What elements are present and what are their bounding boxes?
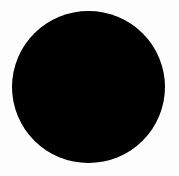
canvas-root: Solid black circle on a white background: [0, 0, 179, 176]
shape-layer: [0, 0, 179, 176]
black-filled-circle: [12, 11, 165, 163]
